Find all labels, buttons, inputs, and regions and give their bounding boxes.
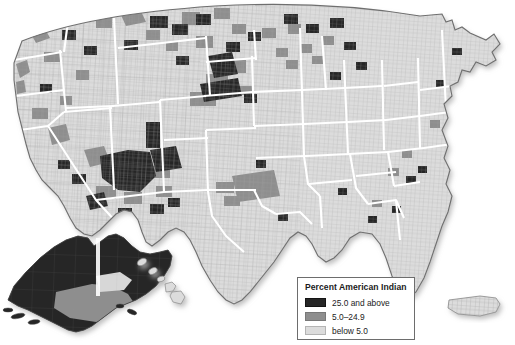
us-county-map xyxy=(0,0,515,345)
legend-item-high: 25.0 and above xyxy=(305,296,408,309)
legend-label-mid: 5.0–24.9 xyxy=(332,312,365,322)
legend-title: Percent American Indian xyxy=(305,282,408,293)
legend-item-low: below 5.0 xyxy=(305,324,408,337)
legend-label-low: below 5.0 xyxy=(332,326,368,336)
legend-label-high: 25.0 and above xyxy=(332,298,390,308)
puerto-rico-inset xyxy=(440,290,510,324)
map-legend: Percent American Indian 25.0 and above 5… xyxy=(297,277,415,340)
choropleth-map-figure: Percent American Indian 25.0 and above 5… xyxy=(0,0,515,345)
legend-item-mid: 5.0–24.9 xyxy=(305,310,408,323)
legend-swatch-mid xyxy=(305,312,326,322)
legend-swatch-low xyxy=(305,326,326,336)
legend-swatch-high xyxy=(305,298,326,308)
